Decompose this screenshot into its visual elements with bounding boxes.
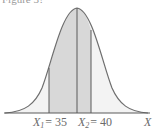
x1-label: X1= 35: [32, 115, 67, 130]
x2-label: X2= 40: [77, 115, 112, 130]
normal-curve-diagram: X1= 35 X2= 40 X: [0, 0, 154, 131]
shaded-region: [49, 8, 91, 113]
x-axis-label: X: [143, 115, 152, 129]
